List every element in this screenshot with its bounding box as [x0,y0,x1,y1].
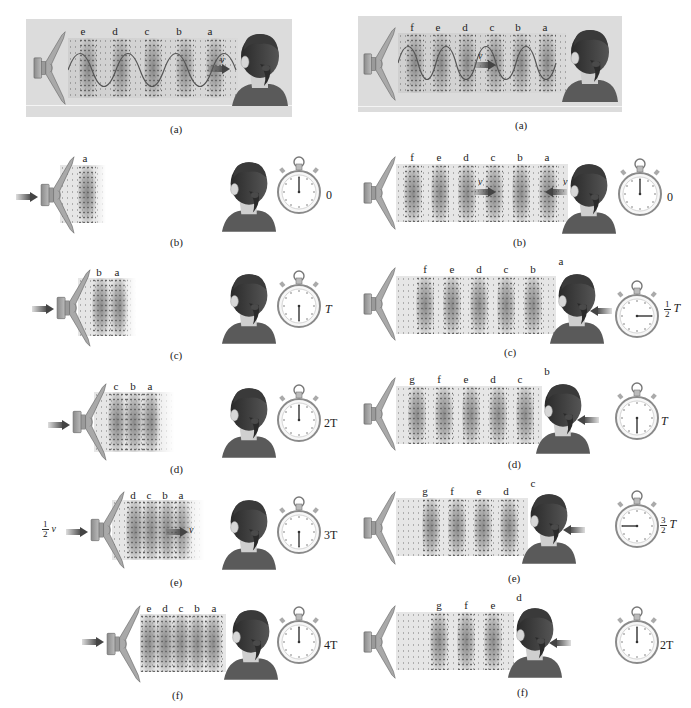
wavefront-label: a [205,26,215,37]
wavefront-label: a [540,22,550,33]
listener-velocity-arrow-icon [577,415,599,425]
listener-velocity-arrow-icon [563,525,585,535]
wavefront-label: c [142,26,152,37]
velocity-label: v [220,54,224,65]
wavefront-label: d [128,490,138,501]
wavefront-label: f [420,264,430,275]
wavefront-label: f [447,486,457,497]
panel-caption: (b) [170,236,183,248]
wavefront-label: g [407,374,417,385]
wavefront-label: a [542,152,552,163]
listener-head-icon [560,24,620,104]
elapsed-time-label: 2T [660,638,673,653]
wavefront-label: c [488,152,498,163]
wavefront-label: e [78,26,88,37]
sound-beam [140,614,226,672]
stopwatch-icon [274,270,324,330]
panel-caption: (c) [170,349,182,361]
panel-caption: (d) [170,463,183,475]
wavefront-label: c [111,381,121,392]
elapsed-time-label: 12 T [664,300,680,319]
listener-head-icon [220,156,278,234]
loudspeaker-icon [360,155,400,231]
loudspeaker-icon [360,266,400,342]
elapsed-time-label: 32 T [660,516,676,535]
panel-caption: (a) [170,123,182,135]
listener-head-icon [220,494,278,572]
wavefront-label: f [461,600,471,611]
listener-head-icon [220,382,278,460]
wavefront-label: a [176,490,186,501]
elapsed-time-label: 0 [667,190,673,205]
wavefront-label: a [145,381,155,392]
wavefront-label: e [144,603,154,614]
panel-caption: (e) [170,576,182,588]
wavefront-label: b [192,603,202,614]
wavefront-label: c [176,603,186,614]
stopwatch-icon [615,158,665,218]
wavefront-label: d [474,264,484,275]
wavefront-label: c [515,374,525,385]
velocity-arrow-right-icon [474,60,496,70]
source-push-arrow-icon [16,192,38,202]
loudspeaker-icon [70,382,110,462]
wavefront-label: b [528,264,538,275]
sound-beam [396,612,514,670]
panel-caption: (c) [504,346,516,358]
listener-head-icon [222,604,280,682]
wavefront-label: e [488,600,498,611]
wavefront-label: b [513,22,523,33]
elapsed-time-label: 0 [326,188,332,203]
wavefront-label: c [501,264,511,275]
wavefront-label: b [160,490,170,501]
elapsed-time-label: T [661,414,668,429]
stopwatch-icon [612,606,662,666]
panel-caption: (e) [508,572,520,584]
source-push-arrow-icon [82,637,104,647]
sound-beam [396,276,556,334]
panel-caption: (a) [515,119,527,131]
wavefront-label: f [407,22,417,33]
panel-caption: (d) [508,458,521,470]
stopwatch-icon [612,280,662,340]
wavefront-label: e [447,264,457,275]
wavefront-label: a [112,267,122,278]
loudspeaker-icon [30,30,70,106]
listener-head-icon [560,158,618,236]
wavefront-label: b [515,152,525,163]
wavefront-label: d [488,374,498,385]
wave-velocity-arrow-icon [474,187,496,197]
wavefront-label: b [128,381,138,392]
elapsed-time-label: 4T [324,638,337,653]
wavefront-label: d [460,22,470,33]
stopwatch-icon [274,384,324,444]
stopwatch-icon [274,156,324,216]
wavefront-label: g [420,486,430,497]
loudspeaker-icon [360,604,400,680]
panel-caption: (f) [517,686,528,698]
loudspeaker-icon [104,604,144,684]
source-velocity-label: 12 v [42,520,56,539]
loudspeaker-icon [54,268,94,348]
wave-velocity-arrow-icon [166,527,188,537]
wavefront-label: b [94,267,104,278]
wavefront-label: a [556,256,566,267]
stopwatch-icon [274,496,324,556]
listener-head-icon [220,268,278,346]
wavefront-label: e [461,374,471,385]
loudspeaker-icon [360,376,400,452]
sound-beam [396,498,528,556]
wave-velocity-label: v [478,176,482,187]
source-push-arrow-icon [32,304,54,314]
loudspeaker-icon [360,490,400,566]
wavefront-label: f [434,374,444,385]
wavefront-label: f [407,152,417,163]
wavefront-label: e [474,486,484,497]
wave-velocity-label: v [189,524,193,535]
listener-velocity-arrow-icon [590,306,612,316]
loudspeaker-icon [88,490,128,570]
wavefront-label: e [433,22,443,33]
wavefront-label: a [80,153,90,164]
stopwatch-icon [612,490,662,550]
stopwatch-icon [274,606,324,666]
